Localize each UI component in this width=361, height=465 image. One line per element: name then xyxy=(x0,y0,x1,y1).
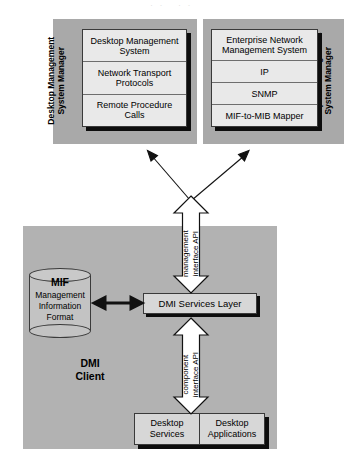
arrow-to-desktop-manager xyxy=(148,151,191,201)
block-arrow-component-interface-api xyxy=(174,318,208,414)
mif-cylinder: MIF Management Information Format xyxy=(29,268,91,338)
block-arrow-management-interface-api xyxy=(174,196,208,293)
arrow-to-enterprise-manager xyxy=(192,151,249,201)
mif-title: MIF xyxy=(51,276,69,288)
arrow-overlay xyxy=(0,0,361,465)
cylinder-text: MIF Management Information Format xyxy=(29,273,91,338)
mif-subtitle: Management Information Format xyxy=(35,290,85,323)
diagram-canvas: · · · · Desktop Management System Manage… xyxy=(0,0,361,465)
arrow-mif-to-services xyxy=(94,298,142,309)
